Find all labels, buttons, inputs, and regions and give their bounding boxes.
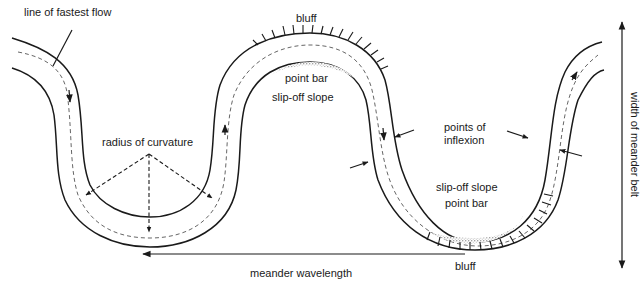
inflexion-arrow-icon [560,150,582,156]
label-point-bar-bottom: point bar [445,197,488,209]
flow-arrow-icon [383,128,384,140]
radius-of-curvature-arrows [86,154,212,232]
label-width-of-meander-belt: width of meander belt [629,91,641,197]
label-bluff-bottom: bluff [455,260,477,272]
inflexion-arrow-icon [507,131,528,138]
label-slip-off-slope-bottom: slip-off slope [436,181,498,193]
label-slip-off-slope-top: slip-off slope [272,91,334,103]
meander-diagram: line of fastest flow bluff point bar sli… [0,0,644,285]
label-radius-of-curvature: radius of curvature [102,136,193,148]
label-point-bar-top: point bar [285,72,328,84]
inflexion-arrow-icon [395,130,414,137]
label-points-of-inflexion-2: inflexion [444,134,484,146]
label-points-of-inflexion-1: points of [444,121,487,133]
label-bluff-top: bluff [296,12,318,24]
label-meander-wavelength: meander wavelength [250,267,352,279]
fastest-flow-leader [53,30,72,66]
label-line-of-fastest-flow: line of fastest flow [24,6,111,18]
flow-arrow-icon [572,72,577,80]
inflexion-arrow-icon [350,162,368,168]
flow-arrow-icon [69,90,70,102]
point-bar-bottom [432,215,523,244]
